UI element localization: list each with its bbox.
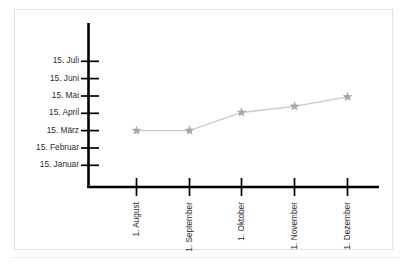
y-axis-tick-labels: 15. Juli 15. Juni 15. Mai 15. April 15. … xyxy=(36,55,79,169)
x-tick-label: 1. September xyxy=(184,202,194,251)
data-point-marker xyxy=(343,92,353,101)
x-tick-label: 1. Oktober xyxy=(236,202,246,241)
x-axis-tick-labels: 1. August 1. September 1. Oktober 1. Nov… xyxy=(131,201,352,251)
series-markers xyxy=(132,92,353,135)
y-axis-ticks xyxy=(81,61,99,165)
y-tick-label: 15. Juni xyxy=(50,73,79,83)
y-tick-label: 15. März xyxy=(47,125,79,135)
page-bottom-divider xyxy=(10,257,400,258)
data-point-marker xyxy=(237,107,247,116)
chart-figure: 15. Juli 15. Juni 15. Mai 15. April 15. … xyxy=(14,9,393,250)
x-tick-label: 1. Dezember xyxy=(342,202,352,250)
y-tick-label: 15. April xyxy=(49,107,79,117)
y-tick-label: 15. Mai xyxy=(52,90,79,100)
x-tick-label: 1. August xyxy=(131,201,141,236)
y-tick-label: 15. Februar xyxy=(36,142,79,152)
y-tick-label: 15. Juli xyxy=(53,55,79,65)
line-chart-svg: 15. Juli 15. Juni 15. Mai 15. April 15. … xyxy=(15,10,394,251)
data-point-marker xyxy=(132,125,142,134)
plot-area: 15. Juli 15. Juni 15. Mai 15. April 15. … xyxy=(15,10,394,251)
x-tick-label: 1. November xyxy=(289,202,299,250)
y-tick-label: 15. Januar xyxy=(40,159,79,169)
data-point-marker xyxy=(290,101,300,110)
data-point-marker xyxy=(185,125,195,134)
